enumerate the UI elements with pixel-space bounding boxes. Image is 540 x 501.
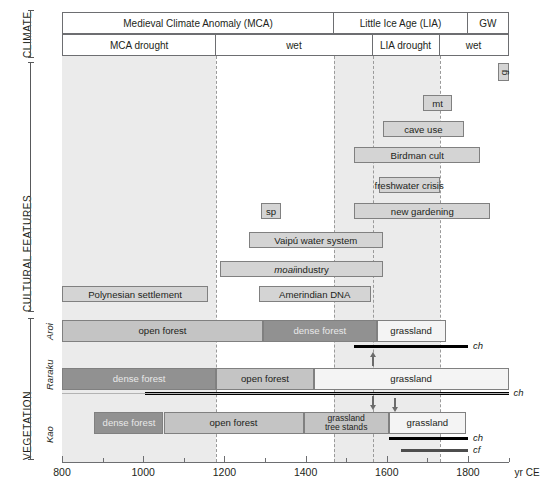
proxy-label-aroi-ch: ch — [473, 340, 483, 351]
proxy-label-kao-ch: ch — [473, 432, 483, 443]
vegetation-segment-aroi-dense: dense forest — [263, 320, 377, 342]
vegetation-site-label-aroi: Aroi — [44, 323, 55, 340]
cultural-feature-mt: mt — [423, 95, 451, 111]
section-label-climate: CLIMATE — [22, 11, 33, 58]
proxy-line-kao-cf — [401, 449, 468, 452]
vegetation-segment-aroi-open: open forest — [62, 320, 263, 342]
axis-tick-1600 — [387, 456, 388, 462]
axis-tick-1900 — [509, 458, 510, 462]
cultural-feature-vaip-water-system: Vaipú water system — [249, 232, 383, 248]
arrow-stem — [394, 398, 396, 408]
axis-tick-1700 — [427, 458, 428, 462]
shaded-band-lia-drought-band — [334, 56, 440, 462]
vegetation-segment-kao-gts: grasslandtree stands — [304, 412, 389, 434]
section-label-cultural: CULTURAL FEATURES — [22, 195, 33, 312]
cultural-feature-italic-term: moai — [274, 264, 295, 275]
shaded-band-mca-drought-band — [62, 56, 216, 462]
event-arrow-raraku-0 — [392, 398, 398, 412]
cultural-feature-amerindian-dna: Amerindian DNA — [259, 286, 371, 302]
axis-tick-1100 — [184, 458, 185, 462]
gridline-1180 — [216, 56, 217, 462]
vegetation-segment-raraku-dense: dense forest — [62, 368, 216, 390]
gridline-1470 — [334, 56, 335, 462]
climate-phase-3: wet — [440, 34, 509, 56]
proxy-line-aroi-ch — [354, 345, 468, 348]
axis-tick-1400 — [306, 456, 307, 462]
axis-tick-label-1800: 1800 — [456, 466, 479, 478]
arrow-stem — [372, 396, 374, 406]
section-rule-cultural — [30, 62, 31, 312]
axis-tick-1200 — [224, 456, 225, 462]
event-arrow-aroi-0 — [370, 352, 376, 366]
cultural-feature-label: g — [498, 69, 509, 74]
axis-unit-label: yr CE — [515, 467, 540, 478]
axis-tick-label-800: 800 — [53, 466, 71, 478]
vegetation-site-label-raraku: Raraku — [44, 359, 55, 390]
axis-line — [62, 462, 509, 463]
axis-tick-900 — [103, 458, 104, 462]
cultural-feature-polynesian-settlement: Polynesian settlement — [62, 286, 208, 302]
section-rule-vegetation — [30, 318, 31, 460]
gridline-1730 — [440, 56, 441, 462]
section-label-vegetation: VEGETATION — [22, 391, 33, 460]
cultural-feature-birdman-cult: Birdman cult — [354, 147, 480, 163]
raraku-proxy-baseline — [62, 393, 509, 394]
vegetation-site-label-kao: Kao — [44, 426, 55, 443]
section-rule-climate — [30, 10, 31, 58]
cultural-feature-sp: sp — [261, 203, 281, 219]
climate-phase-2: LIA drought — [373, 34, 440, 56]
vegetation-segment-raraku-open: open forest — [216, 368, 313, 390]
cultural-feature-cave-use: cave use — [383, 121, 464, 137]
proxy-label-raraku-ch: ch — [514, 387, 524, 398]
climate-era-1: Little Ice Age (LIA) — [334, 12, 468, 34]
vegetation-segment-raraku-grass: grassland — [314, 368, 509, 390]
vegetation-segment-kao-grass: grassland — [389, 412, 466, 434]
axis-tick-label-1000: 1000 — [132, 466, 155, 478]
cultural-feature-moai-industry: moai industry — [220, 261, 382, 277]
climate-phase-1: wet — [216, 34, 372, 56]
cultural-feature-freshwater-crisis: freshwater crisis — [379, 177, 440, 193]
axis-tick-label-1200: 1200 — [213, 466, 236, 478]
vegetation-segment-aroi-grass: grassland — [377, 320, 446, 342]
arrow-stem — [372, 356, 374, 366]
vegetation-segment-label-line: tree stands — [325, 423, 368, 432]
axis-tick-1500 — [346, 458, 347, 462]
proxy-line-kao-ch — [389, 437, 468, 440]
climate-phase-0: MCA drought — [62, 34, 216, 56]
event-arrow-kao-0 — [370, 396, 376, 410]
vegetation-segment-kao-open: open forest — [164, 412, 304, 434]
proxy-label-kao-cf: cf — [473, 444, 480, 455]
cultural-feature-rest: industry — [295, 264, 329, 275]
vegetation-segment-kao-dense: dense forest — [94, 412, 163, 434]
cultural-feature-g: g — [498, 63, 509, 81]
climate-era-2: GW — [468, 12, 509, 34]
axis-tick-label-1400: 1400 — [294, 466, 317, 478]
climate-era-0: Medieval Climate Anomaly (MCA) — [62, 12, 334, 34]
cultural-feature-new-gardening: new gardening — [354, 203, 490, 219]
axis-tick-1300 — [265, 458, 266, 462]
axis-tick-800 — [62, 456, 63, 462]
axis-tick-1000 — [143, 456, 144, 462]
axis-tick-label-1600: 1600 — [375, 466, 398, 478]
axis-tick-1800 — [468, 456, 469, 462]
